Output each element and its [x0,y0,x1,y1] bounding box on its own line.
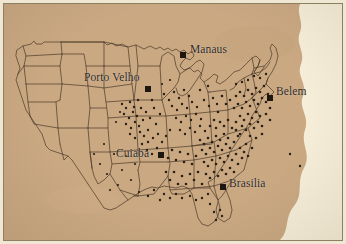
figure-frame: Manaus Porto Velho Belem Cuiaba Brasilia [3,3,343,241]
city-label-belem: Belem [276,86,307,98]
city-marker-porto-velho[interactable] [145,86,151,92]
city-label-brasilia: Brasilia [229,178,266,190]
city-label-cuiaba: Cuiaba [116,148,149,160]
map-canvas: Manaus Porto Velho Belem Cuiaba Brasilia [4,4,342,240]
city-label-manaus: Manaus [190,44,227,56]
city-marker-belem[interactable] [267,95,273,101]
paper-mottle [46,186,118,214]
city-marker-cuiaba[interactable] [158,152,164,158]
usa-map-graphic [4,4,342,240]
city-label-porto-velho: Porto Velho [84,72,140,84]
city-marker-manaus[interactable] [180,52,186,58]
map-figure: Manaus Porto Velho Belem Cuiaba Brasilia [0,0,346,244]
city-marker-brasilia[interactable] [220,184,226,190]
